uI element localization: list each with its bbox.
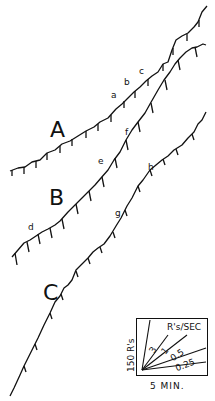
y-scale-label: 150 R's [126,339,136,372]
point-label-g: g [115,208,121,218]
x-scale-label: 5 MIN. [150,381,185,391]
point-label-h: h [148,162,154,172]
point-label-f: f [125,127,128,137]
curve-label-a: A [50,117,65,142]
point-label-a: a [111,90,117,100]
point-label-c: c [139,66,144,76]
curve-a [10,6,207,171]
legend-title: R's/SEC [167,322,201,332]
curve-label-c: C [43,280,58,305]
point-label-b: b [124,77,130,87]
curve-label-b: B [49,185,64,210]
point-label-e: e [98,156,104,166]
point-label-d: d [28,222,34,232]
